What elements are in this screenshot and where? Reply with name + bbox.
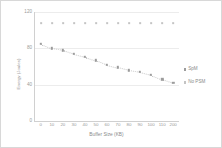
- data-point-marker: [172, 22, 174, 24]
- x-axis-tick-label: 30: [71, 123, 76, 127]
- x-axis-tick-label: 100: [147, 123, 154, 127]
- data-point-marker: [73, 22, 75, 24]
- x-axis-tick-labels: 0102030405060708090100110200: [34, 123, 179, 132]
- gridline: [34, 12, 179, 13]
- data-point-marker: [128, 22, 130, 24]
- data-point-marker: [106, 63, 108, 65]
- data-point-marker: [161, 78, 163, 80]
- data-point-marker: [62, 22, 64, 24]
- y-axis-tick-label: 120: [24, 10, 32, 15]
- legend-swatch-icon: [184, 68, 186, 70]
- legend-item[interactable]: No PSM: [184, 76, 222, 89]
- data-point-marker: [117, 66, 119, 68]
- data-point-marker: [139, 22, 141, 24]
- x-axis-tick-label: 60: [105, 123, 110, 127]
- x-axis-tick-label: 70: [116, 123, 121, 127]
- x-axis-tick-label: 10: [49, 123, 54, 127]
- y-axis-tick-label: 80: [27, 46, 32, 51]
- data-point-marker: [161, 22, 163, 24]
- x-axis-tick-label: 200: [169, 123, 176, 127]
- data-point-marker: [51, 22, 53, 24]
- x-axis-tick-label: 20: [60, 123, 65, 127]
- x-axis-tick-label: 80: [127, 123, 132, 127]
- chart-figure: 04080120 Energy (Joules) 010203040506070…: [0, 0, 222, 148]
- data-point-marker: [95, 59, 97, 61]
- data-point-marker: [150, 22, 152, 24]
- chart-legend: SpMNo PSM: [184, 63, 222, 89]
- legend-label: No PSM: [188, 80, 205, 85]
- data-point-marker: [40, 43, 42, 45]
- data-point-marker: [117, 22, 119, 24]
- data-point-marker: [150, 73, 152, 75]
- y-axis-tick-label: 0: [29, 119, 32, 124]
- x-axis-title: Buffer Size (KB): [34, 132, 179, 137]
- data-point-marker: [172, 82, 174, 84]
- data-point-marker: [84, 22, 86, 24]
- data-point-marker: [73, 53, 75, 55]
- x-axis-tick-label: 40: [82, 123, 87, 127]
- legend-swatch-icon: [184, 81, 186, 83]
- data-point-marker: [40, 22, 42, 24]
- x-axis-tick-label: 0: [40, 123, 42, 127]
- data-point-marker: [84, 55, 86, 57]
- legend-item[interactable]: SpM: [184, 63, 222, 76]
- data-point-marker: [62, 49, 64, 51]
- x-axis-tick-label: 50: [94, 123, 99, 127]
- x-axis-tick-label: 90: [138, 123, 143, 127]
- x-axis-tick-label: 110: [159, 123, 166, 127]
- gridline: [34, 85, 179, 86]
- y-axis-line: [34, 12, 35, 121]
- plot-area: [34, 12, 179, 121]
- data-point-marker: [51, 47, 53, 49]
- y-axis-title: Energy (Joules): [16, 59, 21, 90]
- y-axis-tick-label: 40: [27, 82, 32, 87]
- legend-label: SpM: [188, 67, 197, 72]
- data-point-marker: [106, 22, 108, 24]
- data-point-marker: [95, 22, 97, 24]
- data-point-marker: [139, 71, 141, 73]
- data-point-marker: [128, 69, 130, 71]
